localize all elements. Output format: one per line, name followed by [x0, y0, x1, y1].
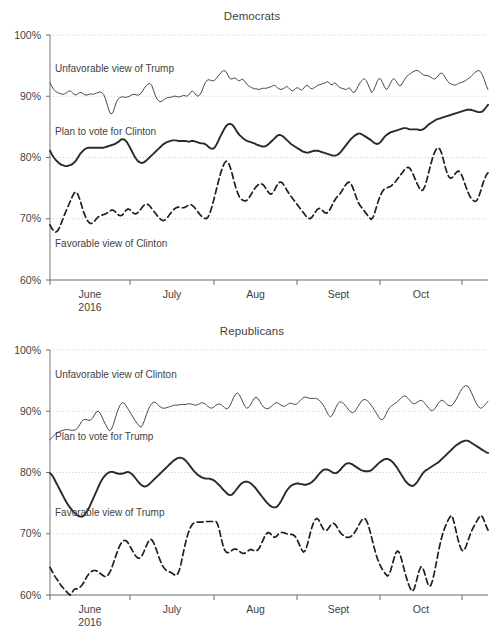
y-axis-tick-label: 70% — [20, 212, 41, 224]
y-axis-tick-label: 100% — [14, 29, 41, 41]
y-axis-tick-label: 90% — [20, 90, 41, 102]
chart-panel-democrats: Democrats 100%90%80%70%60%June2016JulyAu… — [0, 0, 504, 316]
x-axis-tick-label: July — [163, 288, 182, 300]
x-axis-tick-label: Aug — [246, 288, 265, 300]
x-axis-year-label: 2016 — [78, 616, 102, 628]
x-axis-tick-label: Oct — [413, 288, 429, 300]
chart-svg-republicans: 100%90%80%70%60%June2016JulyAugSeptOctUn… — [0, 315, 504, 631]
x-axis-tick-label: June — [79, 603, 102, 615]
x-axis-tick-label: Oct — [413, 603, 429, 615]
series-annotation-label: Unfavorable view of Trump — [55, 63, 174, 74]
x-axis-tick-label: Sept — [328, 603, 350, 615]
plot-area-republicans: 100%90%80%70%60%June2016JulyAugSeptOctUn… — [0, 315, 504, 631]
series-annotation-label: Plan to vote for Trump — [55, 431, 154, 442]
x-axis-tick-label: July — [163, 603, 182, 615]
y-axis-tick-label: 80% — [20, 151, 41, 163]
y-axis-tick-label: 70% — [20, 527, 41, 539]
series-annotation-label: Plan to vote for Clinton — [55, 126, 156, 137]
series-line — [50, 515, 488, 595]
plot-area-democrats: 100%90%80%70%60%June2016JulyAugSeptOctUn… — [0, 0, 504, 316]
series-annotation-label: Unfavorable view of Clinton — [55, 369, 177, 380]
x-axis-tick-label: Sept — [328, 288, 350, 300]
x-axis-tick-label: Aug — [246, 603, 265, 615]
y-axis-tick-label: 90% — [20, 405, 41, 417]
x-axis-year-label: 2016 — [78, 301, 102, 313]
chart-panel-republicans: Republicans 100%90%80%70%60%June2016July… — [0, 315, 504, 631]
series-annotation-label: Favorable view of Clinton — [55, 238, 167, 249]
series-annotation-label: Favorable view of Trump — [55, 507, 165, 518]
y-axis-tick-label: 100% — [14, 344, 41, 356]
y-axis-tick-label: 80% — [20, 466, 41, 478]
y-axis-tick-label: 60% — [20, 589, 41, 601]
y-axis-tick-label: 60% — [20, 274, 41, 286]
x-axis-tick-label: June — [79, 288, 102, 300]
chart-svg-democrats: 100%90%80%70%60%June2016JulyAugSeptOctUn… — [0, 0, 504, 316]
series-line — [50, 71, 488, 114]
series-line — [50, 148, 488, 233]
series-line — [50, 441, 488, 517]
